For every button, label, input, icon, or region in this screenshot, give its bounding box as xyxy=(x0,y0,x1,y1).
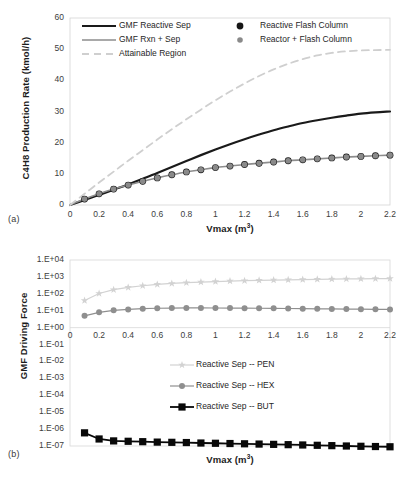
panel-a-x-tick: 1.6 xyxy=(287,209,319,219)
panel-b-x-tick: 2 xyxy=(345,330,377,340)
panel-a-x-tick: 1 xyxy=(199,209,231,219)
panel-b-marker-0 xyxy=(183,279,191,286)
panel-a-x-tick: 0.8 xyxy=(170,209,202,219)
panel-b-y-tick: 1.E+01 xyxy=(14,305,64,315)
panel-b-y-tick: 1.E+04 xyxy=(14,254,64,264)
panel-b-x-tick: 1 xyxy=(199,330,231,340)
panel-b-marker-2 xyxy=(95,435,102,442)
panel-b-marker-2 xyxy=(125,438,132,445)
panel-b-marker-1 xyxy=(140,306,146,312)
panel-a-x-tick: 0.4 xyxy=(112,209,144,219)
panel-a-x-tick: 1.8 xyxy=(316,209,348,219)
panel-b-marker-2 xyxy=(386,443,393,450)
panel-a-x-tick: 1.2 xyxy=(229,209,261,219)
panel-b-marker-1 xyxy=(227,305,233,311)
panel-a-series-2 xyxy=(70,50,390,205)
panel-a-x-tick: 0.2 xyxy=(83,209,115,219)
panel-b-x-tick: 2.2 xyxy=(374,330,399,340)
panel-a-marker-4 xyxy=(242,162,248,168)
panel-a-legend-label: GMF Rxn + Sep xyxy=(119,34,180,44)
panel-a-x-tick: 0 xyxy=(54,209,86,219)
panel-b-y-tick: 1.E-07 xyxy=(14,440,64,450)
panel-a-marker-4 xyxy=(227,163,233,169)
panel-b-marker-2 xyxy=(81,429,88,436)
panel-b-marker-0 xyxy=(343,275,351,282)
panel-a-legend-label: Reactor + Flash Column xyxy=(260,34,352,44)
panel-b-marker-1 xyxy=(111,307,117,313)
panel-b-x-tick: 0.6 xyxy=(141,330,173,340)
panel-a-marker-4 xyxy=(373,153,379,159)
panel-a-marker-4 xyxy=(358,154,364,160)
panel-b-x-axis-title-base: Vmax (m xyxy=(206,454,246,465)
panel-a-marker-4 xyxy=(387,152,393,158)
panel-a-y-tick: 60 xyxy=(40,12,64,22)
panel-b-x-tick: 1.4 xyxy=(258,330,290,340)
panel-a-series-1 xyxy=(70,155,390,205)
panel-b-marker-0 xyxy=(299,276,307,283)
panel-a-marker-4 xyxy=(300,157,306,163)
panel-b-plot-frame xyxy=(70,260,390,446)
panel-b-marker-0 xyxy=(212,278,220,285)
panel-b-marker-1 xyxy=(285,306,291,312)
panel-b-marker-2 xyxy=(255,440,262,447)
panel-b-marker-1 xyxy=(212,305,218,311)
panel-b-marker-1 xyxy=(358,306,364,312)
panel-b-x-tick: 0 xyxy=(54,330,86,340)
panel-a-x-tick: 2.2 xyxy=(374,209,399,219)
panel-a-x-axis-title-tail: ) xyxy=(250,223,253,234)
panel-a-marker-4 xyxy=(213,165,219,171)
panel-b-marker-0 xyxy=(328,275,336,282)
panel-b-marker-2 xyxy=(168,439,175,446)
panel-b-marker-1 xyxy=(314,306,320,312)
panel-a-marker-4 xyxy=(125,182,131,188)
panel-b-marker-1 xyxy=(300,306,306,312)
panel-a-marker-4 xyxy=(314,156,320,162)
panel-b-x-tick: 0.4 xyxy=(112,330,144,340)
panel-a-legend-label: GMF Reactive Sep xyxy=(119,20,191,30)
panel-b-marker-2 xyxy=(183,439,190,446)
panel-b-marker-2 xyxy=(285,441,292,448)
panel-b-marker-0 xyxy=(313,275,321,282)
panel-b-label: (b) xyxy=(8,449,20,459)
panel-a-marker-4 xyxy=(198,167,204,173)
panel-a-marker-4 xyxy=(329,155,335,161)
panel-a-marker-4 xyxy=(184,169,190,175)
panel-b-marker-0 xyxy=(110,286,118,293)
panel-b-x-axis-title-tail: ) xyxy=(250,454,253,465)
panel-b-marker-2 xyxy=(299,441,306,448)
panel-b-marker-2 xyxy=(212,440,219,447)
panel-b-marker-1 xyxy=(329,306,335,312)
panel-a-legend-label: Attainable Region xyxy=(119,48,186,58)
panel-b-marker-0 xyxy=(197,278,205,285)
chart-panel-a: (a) C4H8 Production Rate (kmol/h) Vmax (… xyxy=(0,0,399,240)
panel-b-marker-2 xyxy=(270,441,277,448)
panel-b-marker-1 xyxy=(372,306,378,312)
panel-a-marker-4 xyxy=(96,191,102,197)
panel-a-y-tick: 30 xyxy=(40,106,64,116)
panel-b-marker-2 xyxy=(343,442,350,449)
panel-b-marker-0 xyxy=(270,276,278,283)
panel-b-x-tick: 1.8 xyxy=(316,330,348,340)
panel-a-plot-frame xyxy=(70,18,390,205)
panel-a-marker-4 xyxy=(82,196,88,202)
panel-a-y-tick: 0 xyxy=(40,199,64,209)
panel-b-y-tick: 1.E-04 xyxy=(14,389,64,399)
panel-b-marker-2 xyxy=(154,439,161,446)
panel-a-y-tick: 10 xyxy=(40,168,64,178)
panel-b-marker-0 xyxy=(81,297,89,304)
panel-a-marker-4 xyxy=(285,158,291,164)
panel-a-x-tick: 2 xyxy=(345,209,377,219)
panel-b-y-tick: 1.E+02 xyxy=(14,288,64,298)
panel-a-marker-4 xyxy=(111,186,117,192)
panel-a-marker-4 xyxy=(344,154,350,160)
panel-b-legend-label: Reactive Sep -- PEN xyxy=(196,359,274,369)
panel-b-marker-0 xyxy=(372,275,380,282)
panel-b-marker-2 xyxy=(314,442,321,449)
panel-b-y-tick: 1.E-06 xyxy=(14,423,64,433)
panel-b-x-tick: 0.8 xyxy=(170,330,202,340)
panel-a-marker-4 xyxy=(256,160,262,166)
panel-b-marker-1 xyxy=(242,305,248,311)
panel-b-marker-0 xyxy=(153,280,161,287)
panel-b-y-tick: 1.E-03 xyxy=(14,372,64,382)
panel-a-x-tick: 0.6 xyxy=(141,209,173,219)
